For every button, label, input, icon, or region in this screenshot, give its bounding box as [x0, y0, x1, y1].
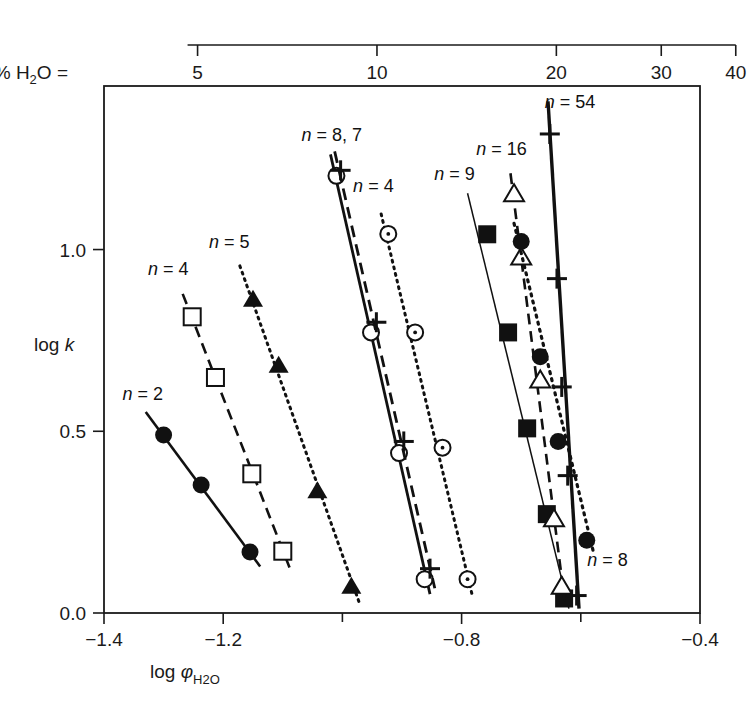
data-point-filled-triangle: [243, 290, 263, 307]
y-axis-title: log k: [34, 334, 76, 355]
data-point-open-triangle: [504, 184, 524, 201]
top-axis-tick-label: 10: [366, 62, 387, 83]
data-point-open-square: [207, 369, 224, 386]
data-point-open-square: [184, 308, 201, 325]
figure-container: 510203040% H2O =0.00.51.0log k−1.4−1.2−0…: [0, 0, 752, 707]
data-point-filled-triangle: [341, 577, 361, 594]
series-label-0: n = 2: [122, 384, 163, 404]
data-point-dotted-circle: [460, 571, 476, 587]
series-4: [331, 151, 440, 588]
data-point-open-triangle: [530, 370, 550, 387]
top-axis-tick-label: 20: [546, 62, 567, 83]
series-label-1: n = 4: [148, 259, 189, 279]
series-0: [146, 412, 260, 566]
series-label-8: n = 8: [587, 550, 628, 570]
series-line: [335, 151, 435, 588]
series-label-9: n = 54: [545, 92, 596, 112]
series-label-3: n = 8, 7: [301, 125, 362, 145]
y-axis-tick-label: 1.0: [60, 240, 86, 261]
series-1: [183, 294, 292, 569]
y-axis-tick-label: 0.0: [60, 603, 86, 624]
chart-svg: 510203040% H2O =0.00.51.0log k−1.4−1.2−0…: [0, 0, 752, 707]
data-point-dotted-circle: [380, 226, 396, 242]
series-label-5: n = 4: [353, 176, 394, 196]
data-point-plus: [540, 124, 560, 144]
data-point-filled-circle: [193, 477, 210, 494]
series-8: [513, 223, 596, 554]
x-axis-tick-label: −1.4: [85, 629, 123, 650]
series-line: [514, 223, 594, 554]
series-label-6: n = 9: [434, 164, 475, 184]
x-axis-tick-label: −0.4: [681, 629, 719, 650]
data-point-open-triangle: [552, 577, 572, 594]
data-point-filled-triangle: [307, 481, 327, 498]
data-point-plus: [547, 269, 567, 289]
data-point-filled-square: [499, 323, 517, 341]
series-label-7: n = 16: [476, 139, 527, 159]
data-point-filled-circle: [532, 348, 549, 365]
series-line: [183, 294, 290, 569]
top-axis-tick-label: 30: [651, 62, 672, 83]
series-line: [381, 214, 472, 596]
series-line: [330, 154, 430, 594]
top-axis-tick-label: 40: [725, 62, 746, 83]
top-axis-title: % H2O =: [0, 62, 68, 87]
data-point-filled-circle: [578, 532, 595, 549]
x-axis-tick-label: −0.8: [443, 629, 481, 650]
series-line: [548, 101, 579, 608]
series-label-2: n = 5: [209, 232, 250, 252]
plot-frame: [104, 86, 700, 613]
data-point-filled-circle: [513, 233, 530, 250]
data-point-filled-square: [518, 419, 536, 437]
data-point-plus: [558, 466, 578, 486]
data-point-filled-circle: [242, 543, 259, 560]
top-axis-tick-label: 5: [192, 62, 203, 83]
data-point-filled-circle: [155, 426, 172, 443]
data-point-filled-square: [478, 225, 496, 243]
data-point-filled-circle: [550, 433, 567, 450]
data-point-open-square: [243, 465, 260, 482]
y-axis-tick-label: 0.5: [60, 421, 86, 442]
series-5: [380, 214, 475, 596]
data-point-dotted-circle: [435, 440, 451, 456]
data-point-dotted-circle: [407, 324, 423, 340]
data-point-open-square: [274, 543, 291, 560]
series-3: [328, 154, 432, 594]
x-axis-tick-label: −1.2: [204, 629, 242, 650]
x-axis-title: log φH2O: [150, 661, 220, 687]
